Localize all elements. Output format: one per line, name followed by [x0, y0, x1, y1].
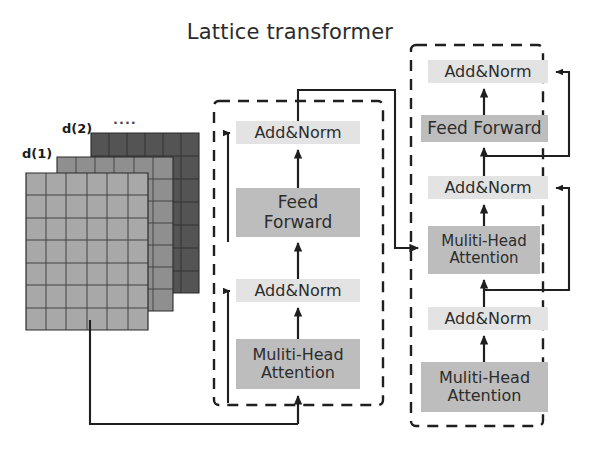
decoder-feed-forward: Feed Forward: [421, 115, 548, 142]
lattice-layer-front: [26, 173, 148, 330]
encoder-add-norm-2: Add&Norm: [236, 121, 360, 144]
decoder-multi-head-attention-2: Muliti-Head Attention: [428, 226, 540, 274]
encoder-residual-2: [228, 133, 230, 242]
encoder-feed-forward: Feed Forward: [236, 188, 360, 237]
decoder-add-norm-1: Add&Norm: [428, 307, 548, 330]
decoder-add-norm-2: Add&Norm: [428, 176, 548, 199]
encoder-add-norm-1: Add&Norm: [236, 279, 360, 302]
decoder-multi-head-attention-1: Muliti-Head Attention: [421, 362, 548, 412]
encoder-multi-head-attention: Muliti-Head Attention: [236, 339, 360, 389]
figure-title: Lattice transformer: [155, 20, 425, 44]
lattice-transformer-figure: Lattice transformer d(1) d(2) .... Add&N…: [0, 0, 611, 455]
lattice-label-d1: d(1): [22, 146, 52, 161]
decoder-residual-3: [484, 72, 569, 156]
decoder-add-norm-3: Add&Norm: [428, 60, 548, 83]
lattice-label-d2: d(2): [62, 121, 92, 136]
lattice-ellipsis-label: ....: [113, 112, 137, 127]
encoder-residual-1: [228, 291, 230, 403]
